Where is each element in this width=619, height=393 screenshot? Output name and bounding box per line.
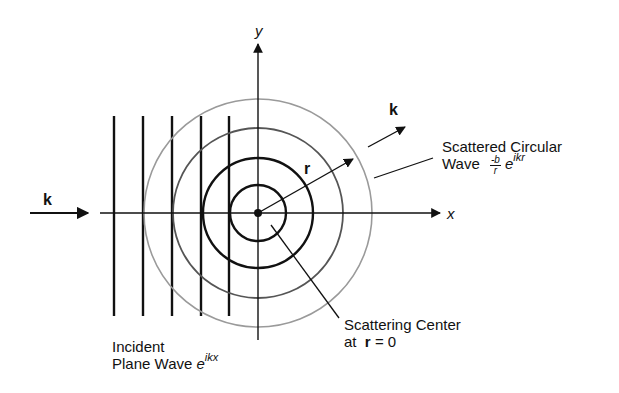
scattering-center-line1: Scattering Center bbox=[344, 316, 461, 333]
scattering-center-dot bbox=[254, 209, 262, 217]
incident-wave-line2: Plane Wave eikx bbox=[112, 355, 218, 374]
scattered-wave-label: Scattered Circular Wave -b r eikr bbox=[442, 138, 562, 176]
incident-wave-line1: Incident bbox=[112, 338, 218, 355]
scattering-center-r: r bbox=[365, 333, 371, 350]
scattering-diagram: y x k k r Scattered Circular Wave -b r e… bbox=[0, 0, 619, 393]
scattering-center-label: Scattering Center at r = 0 bbox=[344, 316, 461, 350]
x-axis-label: x bbox=[447, 205, 455, 222]
fraction-denominator: r bbox=[490, 166, 501, 176]
scattered-k-label: k bbox=[389, 101, 398, 118]
incident-wave-label: Incident Plane Wave eikx bbox=[112, 338, 218, 374]
scattered-wave-fraction: -b r bbox=[490, 155, 501, 176]
axes bbox=[100, 44, 440, 340]
plane-wavefronts bbox=[114, 116, 229, 316]
scattering-center-leader bbox=[271, 225, 339, 318]
diagram-graphics bbox=[0, 0, 619, 393]
scattered-k-arrow bbox=[368, 127, 405, 147]
incident-k-label: k bbox=[43, 191, 52, 208]
scattered-wave-leader bbox=[374, 158, 433, 178]
scattered-wave-line1: Scattered Circular bbox=[442, 138, 562, 155]
radius-label: r bbox=[304, 160, 310, 177]
scattered-wave-word: Wave bbox=[442, 155, 480, 172]
y-axis-label: y bbox=[255, 22, 263, 39]
scattered-exp-exponent: ikr bbox=[513, 151, 525, 163]
scattered-wave-line2: Wave -b r eikr bbox=[442, 155, 562, 176]
scattering-center-eq: = 0 bbox=[375, 333, 396, 350]
scattered-exp-base: e bbox=[505, 155, 513, 172]
incident-wave-words: Plane Wave bbox=[112, 355, 192, 372]
scattering-center-line2: at r = 0 bbox=[344, 333, 461, 350]
incident-exp-base: e bbox=[197, 355, 205, 372]
scattering-center-at: at bbox=[344, 333, 357, 350]
incident-exp-exponent: ikx bbox=[205, 351, 218, 363]
